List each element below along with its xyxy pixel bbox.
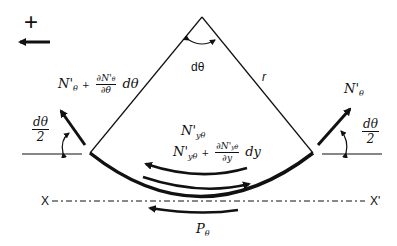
left-force-sub: θ (73, 84, 78, 93)
axis-label-x-prime: X' (370, 195, 380, 207)
shear-bottom-tail: dy (245, 144, 261, 159)
shear-top-sub: yθ (196, 131, 205, 140)
right-half-num: dθ (362, 118, 379, 132)
shear-top-base: N' (181, 123, 196, 138)
left-normal-force-label: N'θ + ∂N'θ ∂θ dθ (58, 74, 139, 95)
left-force-base: N' (58, 76, 73, 91)
shear-force-top-label: N'yθ (181, 124, 205, 137)
right-half-angle-arc (341, 131, 347, 153)
shear-frac-den: ∂y (215, 153, 239, 163)
left-frac-num: ∂N' (97, 73, 112, 83)
right-half-angle-label: dθ 2 (362, 118, 379, 145)
left-normal-force-arrow (61, 111, 85, 145)
left-frac-num-sub: θ (112, 75, 116, 82)
shear-frac-num: ∂N' (216, 141, 231, 151)
apex-angle-arc (189, 40, 215, 44)
right-normal-force-label: N'θ (344, 82, 364, 95)
sign-plus-label: + (24, 10, 38, 34)
shear-arrow-middle-right (143, 177, 249, 189)
left-half-den: 2 (32, 130, 49, 143)
left-frac-den: ∂θ (96, 85, 117, 95)
left-half-angle-arc (62, 133, 69, 153)
radius-label: r (262, 71, 266, 83)
shell-element-diagram (0, 0, 397, 246)
right-normal-force-arrow (318, 109, 350, 145)
load-sub: θ (205, 229, 210, 238)
left-force-plus: + (82, 80, 90, 90)
right-radius-line (202, 17, 313, 153)
left-force-fraction: ∂N'θ ∂θ (96, 74, 117, 95)
axis-label-x: X (41, 195, 49, 207)
load-label: Pθ (196, 222, 210, 235)
shear-bottom-base: N' (173, 144, 188, 159)
left-half-angle-label: dθ 2 (32, 116, 49, 143)
shear-force-bottom-label: N'yθ + ∂N'yθ ∂y dy (173, 142, 261, 163)
left-half-num: dθ (32, 116, 49, 130)
shear-frac-num-sub: yθ (231, 143, 238, 150)
shear-bottom-fraction: ∂N'yθ ∂y (215, 142, 239, 163)
apex-angle-label: dθ (191, 61, 204, 73)
right-force-base: N' (344, 81, 359, 96)
load-base: P (196, 221, 205, 236)
right-half-den: 2 (362, 132, 379, 145)
shear-bottom-plus: + (201, 148, 209, 158)
load-arrow-left (150, 208, 238, 213)
right-force-sub: θ (359, 89, 364, 98)
left-force-tail: dθ (122, 76, 138, 91)
shear-bottom-sub: yθ (188, 152, 197, 161)
shear-arrow-top-left (146, 164, 247, 174)
